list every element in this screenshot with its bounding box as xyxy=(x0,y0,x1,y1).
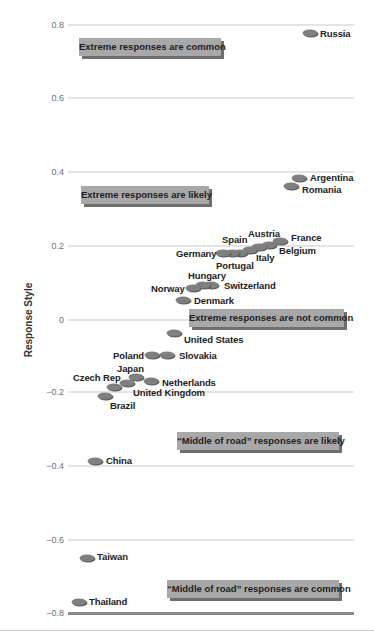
y-tick: −0.4 xyxy=(20,461,64,471)
label-hungary: Hungary xyxy=(188,270,226,281)
label-poland: Poland xyxy=(113,350,144,361)
marker-russia xyxy=(303,30,318,37)
marker-germany xyxy=(216,250,231,257)
marker-poland xyxy=(145,352,160,359)
label-brazil: Brazil xyxy=(110,400,135,411)
label-china: China xyxy=(106,455,132,466)
label-denmark: Denmark xyxy=(194,295,234,306)
gridline xyxy=(68,24,354,26)
label-czech-rep: Czech Rep xyxy=(73,372,121,383)
marker-czech-rep xyxy=(107,384,122,391)
bottom-rule xyxy=(0,630,374,631)
y-tick: 0.4 xyxy=(20,167,64,177)
label-slovakia: Slovakia xyxy=(179,350,217,361)
y-tick: −0.2 xyxy=(20,387,64,397)
marker-united-states xyxy=(167,330,182,337)
gridline xyxy=(68,391,354,393)
label-austria: Austria xyxy=(248,228,280,239)
label-switzerland: Switzerland xyxy=(224,280,276,291)
marker-brazil xyxy=(98,393,113,400)
y-tick: −0.8 xyxy=(20,608,64,618)
gridline xyxy=(68,97,354,99)
label-germany: Germany xyxy=(176,248,217,259)
y-tick: 0 xyxy=(20,315,64,325)
label-spain: Spain xyxy=(222,234,247,245)
label-taiwan: Taiwan xyxy=(97,551,128,562)
annotation-extreme-common: Extreme responses are common xyxy=(79,38,221,56)
label-japan: Japan xyxy=(117,363,144,374)
y-tick: −0.6 xyxy=(20,535,64,545)
annotation-middle-likely: “Middle of road” responses are likely xyxy=(177,432,339,450)
y-tick: 0.2 xyxy=(20,241,64,251)
label-france: France xyxy=(291,232,322,243)
marker-thailand xyxy=(72,599,87,606)
label-belgium: Belgium xyxy=(279,245,316,256)
marker-taiwan xyxy=(80,555,95,562)
label-russia: Russia xyxy=(320,28,351,39)
marker-china xyxy=(88,458,103,465)
label-italy: Italy xyxy=(256,252,275,263)
marker-norway xyxy=(186,285,201,292)
marker-romania xyxy=(284,183,299,190)
label-united-kingdom: United Kingdom xyxy=(133,387,205,398)
annotation-middle-common: “Middle of road” responses are common xyxy=(167,580,339,598)
label-thailand: Thailand xyxy=(89,596,127,607)
label-romania: Romania xyxy=(302,184,341,195)
label-argentina: Argentina xyxy=(310,172,353,183)
marker-netherlands xyxy=(144,378,159,385)
marker-argentina xyxy=(292,175,307,182)
marker-denmark xyxy=(176,297,191,304)
y-tick: 0.6 xyxy=(20,93,64,103)
y-tick: 0.8 xyxy=(20,20,64,30)
marker-united-kingdom xyxy=(120,380,135,387)
label-united-states: United States xyxy=(184,334,243,345)
response-style-chart: Response Style 0.8 0.6 0.4 0.2 0 −0.2 −0… xyxy=(0,0,374,642)
annotation-extreme-not-common: Extreme responses are not common xyxy=(189,309,344,327)
marker-slovakia xyxy=(160,352,175,359)
baseline xyxy=(68,612,354,615)
annotation-extreme-likely: Extreme responses are likely xyxy=(81,186,209,204)
label-norway: Norway xyxy=(151,283,185,294)
gridline xyxy=(68,539,354,541)
